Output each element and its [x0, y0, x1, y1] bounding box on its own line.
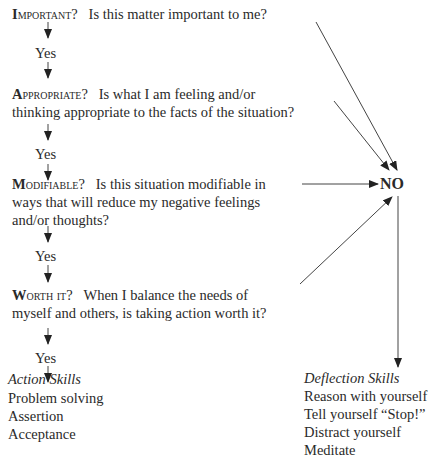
arrow-worth-no [300, 197, 392, 284]
question-worth-it-text-1: When I balance the needs of [84, 287, 249, 303]
deflection-skill-item: Distract yourself [304, 424, 401, 441]
question-important: Important? Is this matter important to m… [12, 6, 267, 23]
question-modifiable-text-1: Is this situation modifiable in [96, 176, 266, 192]
question-modifiable-key: Modifiable? [12, 176, 85, 192]
action-skill-item: Assertion [8, 408, 64, 425]
question-appropriate-key: Appropriate? [12, 86, 88, 102]
question-modifiable: Modifiable? Is this situation modifiable… [12, 176, 266, 193]
yes-label-2: Yes [35, 146, 56, 163]
action-skill-item: Acceptance [8, 426, 76, 443]
action-skills-title: Action Skills [8, 371, 81, 388]
yes-label-3: Yes [35, 248, 56, 265]
question-worth-it: Worth it? When I balance the needs of [12, 287, 248, 304]
yes-label-4: Yes [35, 350, 56, 367]
question-important-key: Important? [12, 6, 78, 22]
question-modifiable-text-2: ways that will reduce my negative feelin… [12, 194, 260, 211]
question-appropriate: Appropriate? Is what I am feeling and/or [12, 86, 255, 103]
deflection-skill-item: Reason with yourself [304, 388, 427, 405]
question-appropriate-text-1: Is what I am feeling and/or [99, 86, 256, 102]
deflection-skill-item: Tell yourself “Stop!” [304, 406, 425, 423]
yes-label-1: Yes [35, 45, 56, 62]
question-worth-it-key: Worth it? [12, 287, 73, 303]
arrow-appropriate-no [334, 101, 389, 170]
question-important-text: Is this matter important to me? [89, 6, 267, 22]
arrow-important-no [316, 22, 397, 170]
question-appropriate-text-2: thinking appropriate to the facts of the… [12, 104, 294, 121]
deflection-skills-title: Deflection Skills [304, 370, 399, 387]
no-node: NO [380, 175, 404, 193]
question-modifiable-text-3: and/or thoughts? [12, 212, 109, 229]
question-worth-it-text-2: myself and others, is taking action wort… [12, 305, 267, 322]
deflection-skill-item: Meditate [304, 442, 356, 459]
action-skill-item: Problem solving [8, 390, 103, 407]
